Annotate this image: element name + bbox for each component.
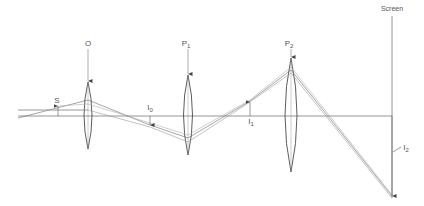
lens-p1-label: P1 — [182, 39, 191, 49]
image-i2-pointer — [393, 147, 401, 152]
lens-o-label: O — [85, 39, 91, 48]
image-i1-label: I1 — [248, 117, 254, 127]
object-s-label: S — [54, 96, 59, 105]
image-i2-label: I2 — [403, 143, 409, 153]
optics-diagram: Screen O P1 P2 S I0 I1 I2 — [0, 0, 424, 206]
lens-p2-label: P2 — [285, 39, 294, 49]
light-rays — [18, 67, 392, 198]
screen-label: Screen — [381, 5, 403, 12]
lens-p1 — [184, 75, 193, 155]
lens-objective — [84, 82, 92, 149]
image-i0-label: I0 — [147, 103, 153, 113]
